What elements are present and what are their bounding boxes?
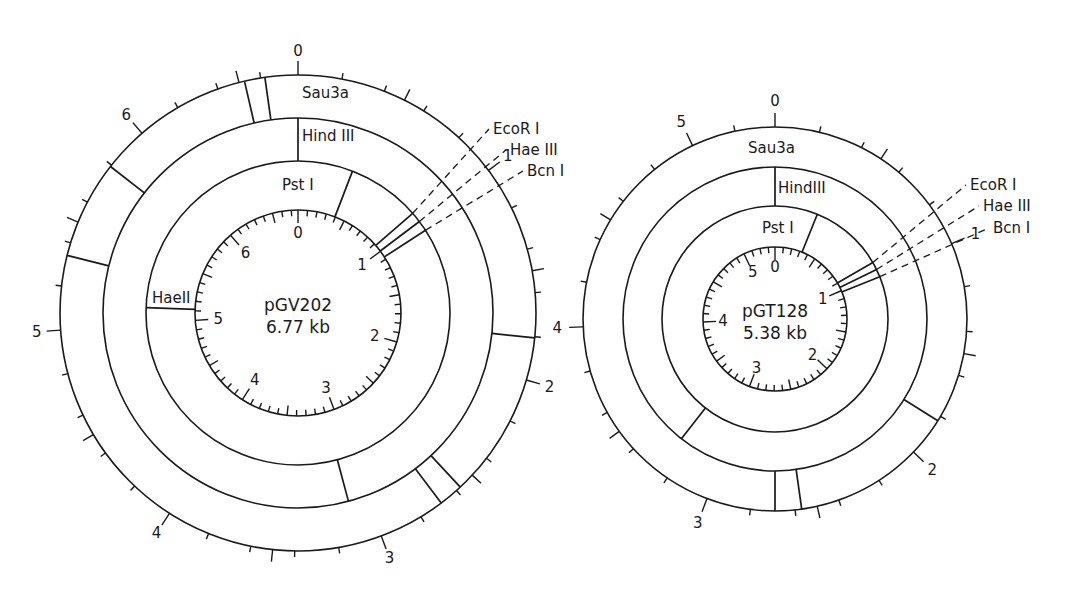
scale-tick: [227, 384, 231, 388]
scale-tick: [370, 244, 374, 248]
scale-tick: [62, 374, 68, 376]
scale-tick: [389, 276, 395, 278]
scale-tick: [197, 292, 203, 293]
scale-tick: [798, 251, 800, 257]
scale-tick: [526, 380, 539, 384]
plasmid-name: pGV202: [264, 295, 332, 315]
scale-tick: [107, 161, 112, 165]
scale-tick: [704, 329, 710, 330]
restriction-cut-line: [337, 460, 348, 502]
restriction-map-canvas: 01234560123456Sau3aHind IIIPst IHaeIIEco…: [0, 0, 1079, 606]
scale-tick: [250, 546, 251, 552]
scale-tick: [706, 297, 712, 299]
scale-tick: [272, 213, 274, 223]
scale-tick: [221, 377, 226, 381]
restriction-cut-line: [431, 456, 460, 487]
outer-scale-label: 4: [152, 524, 162, 542]
scale-tick: [390, 295, 400, 297]
scale-tick: [818, 360, 827, 369]
enzyme-label-EcoRI: EcoR I: [493, 120, 540, 138]
plasmid-map-pGV202: 01234560123456Sau3aHind IIIPst IHaeIIEco…: [32, 42, 564, 567]
scale-tick: [817, 370, 821, 375]
scale-tick: [370, 251, 380, 259]
scale-tick: [828, 276, 833, 280]
scale-tick: [65, 241, 71, 243]
scale-tick: [752, 251, 754, 257]
scale-tick: [254, 220, 257, 225]
scale-tick: [391, 285, 397, 287]
scale-tick: [952, 238, 965, 243]
enzyme-label-HindIII: HindIII: [778, 179, 826, 197]
scale-tick: [629, 449, 633, 453]
scale-tick: [836, 330, 846, 332]
scale-tick: [750, 509, 751, 515]
scale-tick: [56, 285, 62, 286]
scale-tick: [364, 237, 368, 241]
enzyme-label-HaeIII: Hae III: [510, 141, 558, 159]
scale-tick: [101, 453, 106, 457]
scale-tick: [730, 263, 734, 268]
scale-tick: [724, 269, 728, 273]
scale-tick: [238, 229, 241, 234]
scale-tick: [487, 458, 492, 462]
scale-tick: [964, 286, 970, 287]
scale-tick: [381, 259, 386, 262]
scale-tick: [384, 338, 396, 342]
restriction-cut-line: [110, 166, 144, 192]
outer-scale-label: 3: [385, 549, 395, 567]
scale-tick: [271, 550, 272, 562]
scale-tick: [251, 399, 254, 404]
scale-tick: [510, 421, 515, 424]
scale-tick: [768, 247, 769, 253]
restriction-cut-line: [904, 400, 938, 421]
enzyme-label-BcnI: Bcn I: [527, 162, 564, 180]
scale-tick: [702, 499, 707, 512]
scale-tick: [307, 210, 308, 216]
inner-scale-label: 1: [818, 290, 828, 308]
scale-tick: [941, 416, 946, 419]
outer-scale-label: 6: [122, 106, 132, 124]
inner-scale-label: 0: [293, 224, 303, 242]
scale-tick: [734, 125, 735, 131]
scale-tick: [339, 548, 340, 554]
scale-tick: [766, 384, 767, 390]
restriction-cut-line: [335, 171, 353, 217]
scale-tick: [231, 235, 240, 245]
scale-tick: [325, 214, 327, 220]
scale-tick: [224, 242, 228, 246]
scale-tick: [760, 249, 761, 255]
scale-tick: [388, 349, 394, 351]
plasmid-restriction-maps: 01234560123456Sau3aHind IIIPst IHaeIIEco…: [0, 0, 1079, 606]
scale-tick: [735, 374, 738, 379]
scale-tick: [421, 517, 424, 522]
scale-tick: [472, 475, 481, 483]
inner-scale-label: 2: [808, 346, 818, 364]
scale-tick: [881, 149, 888, 159]
scale-tick: [706, 337, 712, 339]
scale-tick: [737, 258, 740, 263]
scale-tick: [424, 106, 427, 111]
outer-scale-label: 4: [552, 319, 562, 337]
scale-tick: [758, 383, 759, 389]
scale-tick: [728, 369, 732, 374]
restriction-cut-line: [681, 408, 705, 439]
restriction-cut-line: [67, 255, 109, 265]
scale-tick: [329, 397, 334, 409]
scale-tick: [278, 408, 279, 414]
enzyme-label-EcoRI: EcoR I: [970, 176, 1017, 194]
scale-tick: [914, 452, 924, 462]
outer-scale-label: 0: [770, 92, 780, 110]
scale-tick: [718, 275, 723, 279]
scale-tick: [175, 102, 178, 107]
plasmid-size: 6.77 kb: [266, 317, 330, 337]
scale-tick: [385, 268, 390, 271]
scale-tick: [456, 491, 460, 495]
scale-tick: [805, 255, 808, 260]
scale-tick: [838, 299, 844, 301]
scale-tick: [651, 165, 655, 170]
scale-tick: [384, 357, 389, 360]
inner-scale-label: 6: [241, 244, 251, 262]
scale-tick: [790, 249, 791, 255]
site-EcoRI: EcoR I: [837, 176, 1016, 283]
restriction-cut-line: [492, 333, 535, 337]
